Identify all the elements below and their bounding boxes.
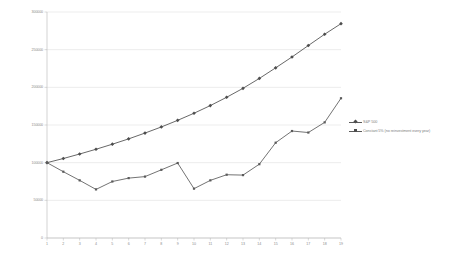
chart-legend: S&P 500 Constant 5% (no reinvestment eve… xyxy=(349,118,449,136)
data-point xyxy=(291,130,293,132)
x-axis-tick-label: 4 xyxy=(90,242,102,246)
data-point xyxy=(258,163,260,165)
x-axis-tick-label: 2 xyxy=(57,242,69,246)
series-line-0 xyxy=(47,24,341,163)
x-axis-tick-label: 13 xyxy=(237,242,249,246)
x-axis-tick-label: 3 xyxy=(74,242,86,246)
data-point xyxy=(160,169,162,171)
data-point xyxy=(275,142,277,144)
x-axis-tick-label: 1 xyxy=(41,242,53,246)
y-axis-tick-label: 150000 xyxy=(9,123,43,127)
data-point xyxy=(193,188,195,190)
data-point xyxy=(144,176,146,178)
data-point xyxy=(176,118,180,122)
data-point xyxy=(307,131,309,133)
y-axis-tick-label: 250000 xyxy=(9,48,43,52)
x-axis-tick-label: 17 xyxy=(302,242,314,246)
x-axis-tick-label: 16 xyxy=(286,242,298,246)
data-point xyxy=(192,111,196,115)
data-point xyxy=(209,179,211,181)
y-axis-tick-label: 50000 xyxy=(9,198,43,202)
x-axis-tick-label: 19 xyxy=(335,242,347,246)
x-axis-tick-label: 9 xyxy=(172,242,184,246)
x-axis-tick-label: 8 xyxy=(155,242,167,246)
data-point xyxy=(143,131,147,135)
x-axis-tick-label: 10 xyxy=(188,242,200,246)
chart-screenshot: 0500001000001500002000002500003000001234… xyxy=(0,0,449,263)
data-point xyxy=(110,142,114,146)
x-axis-tick-label: 12 xyxy=(221,242,233,246)
data-point xyxy=(111,180,113,182)
y-axis-tick-label: 0 xyxy=(9,236,43,240)
data-point xyxy=(128,177,130,179)
data-point xyxy=(177,162,179,164)
legend-label-sp500: S&P 500 xyxy=(363,120,377,125)
x-axis-tick-label: 7 xyxy=(139,242,151,246)
data-point xyxy=(324,121,326,123)
y-axis-tick-label: 100000 xyxy=(9,161,43,165)
legend-item-constant5[interactable]: Constant 5% (no reinvestment every year) xyxy=(349,127,449,135)
data-point xyxy=(241,86,245,90)
y-axis-tick-label: 300000 xyxy=(9,10,43,14)
data-point xyxy=(62,171,64,173)
data-point xyxy=(94,147,98,151)
data-point xyxy=(340,97,342,99)
y-axis-tick-label: 200000 xyxy=(9,85,43,89)
data-point xyxy=(208,104,212,108)
x-axis-tick-label: 5 xyxy=(106,242,118,246)
legend-label-constant5: Constant 5% (no reinvestment every year) xyxy=(363,129,430,134)
data-point xyxy=(159,125,163,129)
data-point xyxy=(79,179,81,181)
data-point xyxy=(127,137,131,141)
legend-item-sp500[interactable]: S&P 500 xyxy=(349,118,449,126)
data-point xyxy=(46,162,48,164)
data-point xyxy=(225,95,229,99)
x-axis-tick-label: 11 xyxy=(204,242,216,246)
data-point xyxy=(78,152,82,156)
x-axis-tick-label: 15 xyxy=(270,242,282,246)
x-axis-tick-label: 18 xyxy=(319,242,331,246)
legend-marker-square-icon xyxy=(349,128,362,135)
x-axis-tick-label: 14 xyxy=(253,242,265,246)
data-point xyxy=(61,157,65,161)
data-point xyxy=(242,174,244,176)
x-axis-tick-label: 6 xyxy=(123,242,135,246)
data-point xyxy=(95,188,97,190)
legend-marker-diamond-icon xyxy=(349,119,362,126)
data-point xyxy=(226,174,228,176)
